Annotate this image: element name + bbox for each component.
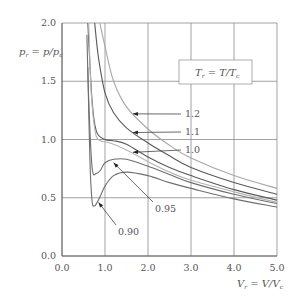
annotation-arrow <box>133 150 181 152</box>
y-tick-label: 1.5 <box>41 75 56 86</box>
axis-ticks: 0.01.02.03.04.05.00.00.51.01.52.0 <box>41 17 285 273</box>
y-tick-label: 0.5 <box>41 192 56 203</box>
annotation-arrow <box>114 163 153 202</box>
x-tick-label: 3.0 <box>183 262 198 273</box>
isotherm-curves <box>87 23 277 207</box>
y-tick-label: 1.0 <box>41 134 56 145</box>
annotation-arrow <box>133 132 181 133</box>
annotation-label: 1.0 <box>185 144 200 155</box>
x-tick-label: 1.0 <box>97 262 112 273</box>
annotation-label: 1.2 <box>185 108 200 119</box>
y-tick-label: 2.0 <box>41 17 56 28</box>
x-axis-label: Vr = V/Vc <box>237 278 284 290</box>
arrowhead-icon <box>99 202 104 207</box>
y-axis-label: pr = p/pc <box>19 46 63 58</box>
isotherm-curve-1.0-dashed-light <box>89 23 277 202</box>
grid <box>62 23 277 256</box>
legend-box: Tr = T/Tc <box>179 60 252 84</box>
annotations: 1.21.11.00.950.90 <box>99 108 201 237</box>
x-tick-label: 4.0 <box>226 262 241 273</box>
annotation-label: 0.95 <box>155 203 176 214</box>
x-tick-label: 5.0 <box>269 262 284 273</box>
y-tick-label: 0.0 <box>41 250 56 261</box>
annotation-label: 0.90 <box>118 226 139 237</box>
isotherm-curve-1.2 <box>100 23 277 188</box>
annotation-label: 1.1 <box>185 126 200 137</box>
x-tick-label: 2.0 <box>140 262 155 273</box>
x-tick-label: 0.0 <box>54 262 69 273</box>
isotherm-curve-1.0 <box>88 23 277 200</box>
chart: 0.01.02.03.04.05.00.00.51.01.52.0 1.21.1… <box>0 0 300 308</box>
